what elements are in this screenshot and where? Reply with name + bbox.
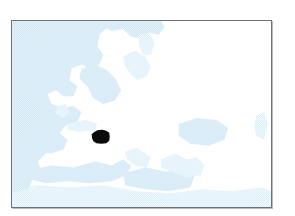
map-canvas [12,21,271,207]
locator-map-figure: Europe locator map [0,0,295,216]
map-frame [11,20,272,208]
